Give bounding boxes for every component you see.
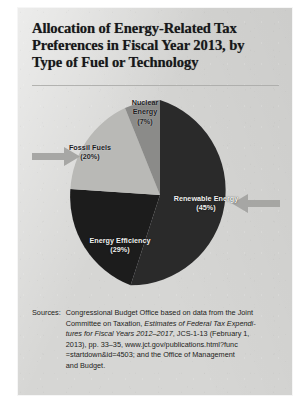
sources-line-2-text: Committee on Taxation, — [66, 319, 145, 328]
sources-line-6: and Budget. — [66, 361, 282, 372]
callout-arrow-renewable-energy — [232, 194, 280, 213]
sources-line-4: 2013), pp. 33–35, www.jct.gov/publicatio… — [66, 340, 282, 351]
sources-note: Sources: Congressional Budget Office bas… — [32, 308, 282, 372]
sources-line-3: tures for Fiscal Years 2012–2017, JCS-1-… — [66, 329, 282, 340]
sources-line-1: Congressional Budget Office based on dat… — [66, 308, 282, 319]
sources-line-5: =startdown&id=4503; and the Office of Ma… — [66, 350, 282, 361]
sources-line-3-tail: , JCS-1-13 (February 1, — [173, 329, 250, 338]
sources-italic-title-part-2: tures for Fiscal Years 2012–2017 — [66, 329, 173, 338]
sources-italic-title-part-1: Estimates of Federal Tax Expendi- — [144, 319, 255, 328]
sources-label: Sources: — [32, 308, 61, 372]
sources-line-2: Committee on Taxation, Estimates of Fede… — [66, 319, 282, 330]
sources-text: Congressional Budget Office based on dat… — [66, 308, 282, 372]
document-page: Allocation of Energy-Related Tax Prefere… — [18, 8, 292, 395]
callout-arrow-fossil-fuels — [32, 147, 80, 166]
